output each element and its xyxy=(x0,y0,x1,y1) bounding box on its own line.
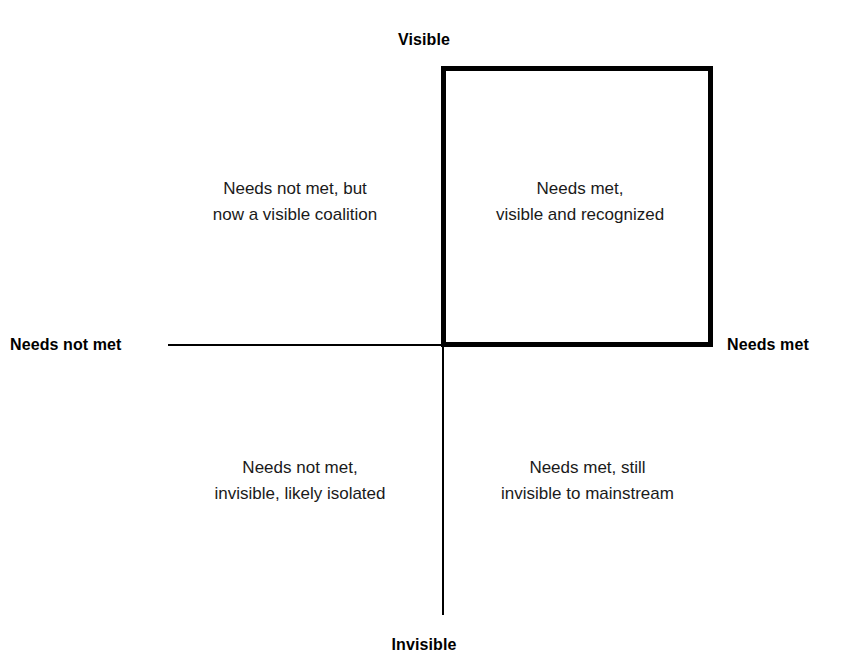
axis-label-invisible: Invisible xyxy=(0,636,848,654)
quadrant-label-bottom-right: Needs met, still invisible to mainstream xyxy=(455,455,720,507)
quadrant-label-top-left-line1: Needs not met, but xyxy=(160,176,430,202)
quadrant-label-bottom-right-line1: Needs met, still xyxy=(455,455,720,481)
axis-label-visible: Visible xyxy=(0,31,848,49)
axis-label-needs-met: Needs met xyxy=(727,336,809,354)
quadrant-label-bottom-left-line2: invisible, likely isolated xyxy=(165,481,435,507)
quadrant-label-bottom-right-line2: invisible to mainstream xyxy=(455,481,720,507)
vertical-axis-line xyxy=(442,345,444,615)
quadrant-diagram: Visible Invisible Needs not met Needs me… xyxy=(0,0,848,672)
quadrant-label-bottom-left-line1: Needs not met, xyxy=(165,455,435,481)
horizontal-axis-line xyxy=(168,344,445,346)
quadrant-label-top-right-line1: Needs met, xyxy=(455,176,705,202)
quadrant-label-top-right-line2: visible and recognized xyxy=(455,202,705,228)
quadrant-label-top-left-line2: now a visible coalition xyxy=(160,202,430,228)
quadrant-label-top-left: Needs not met, but now a visible coaliti… xyxy=(160,176,430,228)
quadrant-label-top-right: Needs met, visible and recognized xyxy=(455,176,705,228)
axis-label-needs-not-met: Needs not met xyxy=(10,336,122,354)
quadrant-label-bottom-left: Needs not met, invisible, likely isolate… xyxy=(165,455,435,507)
